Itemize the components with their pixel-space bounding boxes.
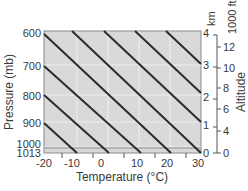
y-tick-label: 800 bbox=[23, 90, 41, 102]
x-tick-label: -10 bbox=[64, 157, 80, 169]
y-tick-label: 600 bbox=[23, 27, 41, 39]
ft-tick-label: 4 bbox=[223, 125, 229, 137]
x-tick-label: 20 bbox=[161, 157, 173, 169]
km-axis: 4 3 2 1 0 km bbox=[203, 11, 217, 159]
ft-unit-label: 1000 ft bbox=[226, 0, 238, 34]
y-tick-label: 900 bbox=[23, 117, 41, 129]
km-tick-label: 3 bbox=[203, 59, 209, 71]
x-tick-label: 10 bbox=[131, 157, 143, 169]
ft-tick-label: 12 bbox=[223, 41, 235, 53]
ft-tick-label: 6 bbox=[223, 103, 229, 115]
km-tick-label: 0 bbox=[203, 147, 209, 159]
ft-tick-label: 0 bbox=[223, 147, 229, 159]
altitude-axis-title: Altitude bbox=[234, 72, 248, 112]
km-unit-label: km bbox=[205, 11, 217, 26]
km-tick-label: 4 bbox=[203, 27, 209, 39]
y-tick-label: 1013 bbox=[17, 147, 41, 159]
km-tick-label: 2 bbox=[203, 91, 209, 103]
x-tick-labels: -20 -10 0 10 20 30 bbox=[36, 157, 204, 169]
km-tick-label: 1 bbox=[203, 119, 209, 131]
chart: -20 -10 0 10 20 30 Temperature (°C) 600 … bbox=[0, 0, 248, 191]
x-axis-title: Temperature (°C) bbox=[76, 170, 168, 184]
y-axis-title: Pressure (mb) bbox=[2, 54, 16, 130]
ft-tick-label: 8 bbox=[223, 82, 229, 94]
y-tick-label: 700 bbox=[23, 60, 41, 72]
x-tick-label: 0 bbox=[98, 157, 104, 169]
y-tick-labels: 600 700 800 900 1000 1013 bbox=[17, 27, 41, 159]
